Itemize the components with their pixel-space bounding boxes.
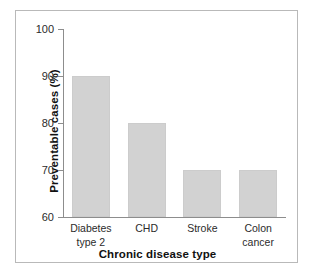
bar: [128, 123, 166, 217]
y-axis-tick-label: 100: [23, 29, 54, 30]
x-axis-tick-label-line: cancer: [230, 236, 286, 250]
y-axis-tick: [58, 170, 63, 171]
y-axis-tick-label: 80: [23, 123, 54, 124]
y-axis-tick: [58, 29, 63, 30]
figure: Preventable cases (%) 10090807060 Diabet…: [0, 0, 313, 279]
bar: [239, 170, 277, 217]
x-axis-tick-label: Stroke: [175, 222, 231, 236]
x-axis-line: [63, 217, 286, 218]
y-axis-tick: [58, 76, 63, 77]
y-axis-tick-label: 90: [23, 76, 54, 77]
chart-frame: Preventable cases (%) 10090807060 Diabet…: [15, 10, 298, 263]
x-axis-tick-label-line: type 2: [63, 236, 119, 250]
x-axis-tick-label-line: Diabetes: [63, 222, 119, 236]
bar: [72, 76, 110, 217]
x-axis-tick-label-line: CHD: [119, 222, 175, 236]
y-axis-tick-label: 70: [23, 170, 54, 171]
y-axis-tick: [58, 217, 63, 218]
y-axis-tick-label: 60: [23, 217, 54, 218]
x-axis-tick-label: Coloncancer: [230, 222, 286, 249]
y-axis-line: [63, 29, 64, 217]
plot-area: 10090807060 Diabetestype 2CHDStrokeColon…: [63, 29, 286, 217]
y-axis-tick: [58, 123, 63, 124]
x-axis-tick-label: CHD: [119, 222, 175, 236]
x-axis-tick-label-line: Colon: [230, 222, 286, 236]
bar: [183, 170, 221, 217]
x-axis-tick-label: Diabetestype 2: [63, 222, 119, 249]
x-axis-tick-label-line: Stroke: [175, 222, 231, 236]
x-axis-title: Chronic disease type: [16, 248, 299, 260]
